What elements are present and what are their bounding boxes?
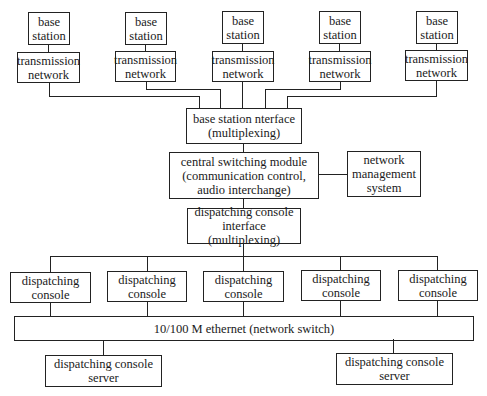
dispatching-console-server-2: dispatching console server bbox=[336, 353, 453, 385]
server-label: dispatching console server bbox=[54, 357, 153, 385]
transmission-network-1: transmission network bbox=[17, 52, 80, 83]
dispatching-console-4: dispatching console bbox=[301, 270, 381, 301]
dispatching-console-interface: dispatching console interface (multiplex… bbox=[187, 208, 301, 244]
dispatching-console-1: dispatching console bbox=[10, 272, 91, 303]
transmission-network-3: transmission network bbox=[212, 51, 274, 82]
dispatching-console-label: dispatching console bbox=[312, 272, 370, 300]
connector-line bbox=[49, 96, 200, 97]
connector-line bbox=[49, 83, 50, 97]
central-switching-module: central switching module (communication … bbox=[169, 152, 319, 199]
connector-line bbox=[340, 301, 341, 316]
connector-line bbox=[103, 341, 104, 356]
connector-line bbox=[243, 302, 244, 317]
base-station-3: base station bbox=[222, 11, 264, 44]
central-switching-module-label: central switching module (communication … bbox=[181, 155, 307, 197]
dispatching-console-label: dispatching console bbox=[409, 272, 467, 300]
connector-line bbox=[265, 89, 266, 109]
connector-line bbox=[50, 256, 51, 272]
dispatching-console-label: dispatching console bbox=[22, 274, 80, 302]
server-label: dispatching console server bbox=[345, 355, 444, 383]
ethernet-label: 10/100 M ethernet (network switch) bbox=[154, 322, 335, 336]
dispatching-console-5: dispatching console bbox=[398, 270, 478, 301]
transmission-network-label: transmission network bbox=[211, 53, 274, 81]
connector-line bbox=[393, 339, 394, 354]
transmission-network-label: transmission network bbox=[405, 52, 468, 80]
base-station-label: base station bbox=[226, 14, 259, 42]
connector-line bbox=[436, 81, 437, 97]
connector-line bbox=[243, 256, 244, 271]
base-station-interface: base station nterface (multiplexing) bbox=[186, 108, 302, 144]
dispatching-console-label: dispatching console bbox=[118, 273, 176, 301]
connector-line bbox=[437, 256, 438, 271]
connector-line bbox=[242, 44, 243, 51]
connector-line bbox=[437, 301, 438, 316]
base-station-label: base station bbox=[420, 14, 453, 42]
base-station-label: base station bbox=[32, 15, 65, 43]
transmission-network-4: transmission network bbox=[309, 51, 371, 82]
connector-line bbox=[339, 44, 340, 51]
connector-line bbox=[147, 302, 148, 317]
transmission-network-label: transmission network bbox=[114, 53, 177, 81]
connector-line bbox=[340, 256, 341, 271]
ethernet-network-switch: 10/100 M ethernet (network switch) bbox=[14, 316, 474, 341]
transmission-network-label: transmission network bbox=[17, 54, 80, 82]
base-station-4: base station bbox=[319, 11, 361, 44]
dispatching-console-2: dispatching console bbox=[107, 271, 187, 302]
dispatching-console-label: dispatching console bbox=[215, 273, 273, 301]
connector-line bbox=[242, 82, 243, 109]
transmission-network-2: transmission network bbox=[115, 51, 176, 82]
base-station-label: base station bbox=[323, 14, 356, 42]
base-station-5: base station bbox=[416, 11, 458, 44]
dispatching-console-interface-label: dispatching console interface (multiplex… bbox=[188, 205, 300, 247]
network-management-system-label: network management system bbox=[352, 153, 416, 195]
connector-line bbox=[220, 89, 221, 109]
dispatching-console-server-1: dispatching console server bbox=[45, 355, 162, 387]
connector-line bbox=[287, 96, 437, 97]
base-station-label: base station bbox=[129, 15, 162, 43]
base-station-interface-label: base station nterface (multiplexing) bbox=[193, 112, 295, 140]
connector-line bbox=[50, 303, 51, 317]
connector-line bbox=[265, 89, 341, 90]
transmission-network-5: transmission network bbox=[405, 50, 468, 81]
transmission-network-label: transmission network bbox=[308, 53, 371, 81]
connector-line bbox=[319, 174, 348, 175]
connector-line bbox=[147, 256, 148, 271]
base-station-2: base station bbox=[125, 12, 167, 45]
dispatching-console-3: dispatching console bbox=[203, 271, 284, 302]
connector-line bbox=[48, 45, 49, 52]
connector-line bbox=[146, 89, 221, 90]
base-station-1: base station bbox=[28, 12, 70, 45]
network-management-system: network management system bbox=[347, 151, 421, 197]
